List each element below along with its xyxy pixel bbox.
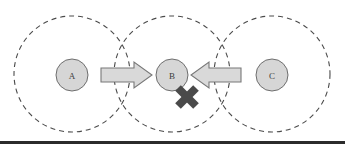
node-a: A — [56, 59, 88, 91]
arrow-right-shape — [101, 62, 152, 88]
diagram-svg: A B C — [0, 0, 345, 148]
node-a-circle — [56, 59, 88, 91]
node-b: B — [156, 59, 188, 91]
cross-mark-icon — [178, 88, 196, 106]
arrow-left-shape — [191, 62, 241, 88]
node-c-circle — [256, 59, 288, 91]
arrow-c-to-b — [191, 62, 241, 88]
node-c: C — [256, 59, 288, 91]
arrow-a-to-b — [101, 62, 152, 88]
diagram-canvas: A B C — [0, 0, 345, 148]
node-b-circle — [156, 59, 188, 91]
bottom-rule — [0, 141, 345, 144]
